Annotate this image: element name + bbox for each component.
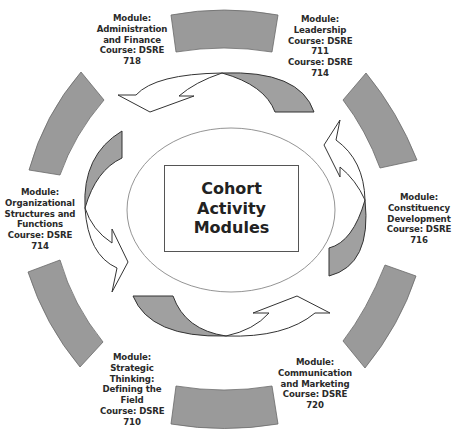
module-label-constituency-development: Module: Constituency Development Course:…	[382, 192, 456, 246]
arrow-bottom	[226, 296, 330, 336]
label-line: Course: DSRE	[100, 406, 164, 417]
label-line: Module:	[288, 14, 352, 25]
label-line: 710	[100, 417, 164, 428]
label-line: Module:	[382, 192, 456, 203]
label-line: Organizational	[4, 198, 76, 209]
ring-segment-lower-right	[343, 265, 416, 368]
module-label-leadership: Module: Leadership Course: DSRE 711 Cour…	[288, 14, 352, 79]
label-line: Course: DSRE	[288, 36, 352, 47]
label-line: 716	[382, 235, 456, 246]
label-line: Constituency	[382, 203, 456, 214]
label-line: 718	[92, 56, 172, 67]
arrow-left	[85, 208, 128, 292]
label-line: 714	[288, 68, 352, 79]
label-line: Course: DSRE	[92, 45, 172, 56]
ring-segment-lower-left	[28, 260, 103, 367]
label-line: Strategic	[100, 363, 164, 374]
module-label-organizational-structures: Module: Organizational Structures and Fu…	[4, 187, 76, 252]
label-line: Course: DSRE	[4, 230, 76, 241]
label-line: and Marketing	[278, 379, 352, 390]
label-line: Thinking:	[100, 374, 164, 385]
arrow-left-shade	[85, 131, 122, 208]
label-line: Module:	[4, 187, 76, 198]
center-title-line: Modules	[194, 218, 270, 238]
label-line: Course: DSRE	[288, 57, 352, 68]
label-line: 720	[278, 400, 352, 411]
module-label-strategic-thinking: Module: Strategic Thinking: Defining the…	[100, 352, 164, 428]
arrow-top	[118, 73, 222, 112]
arrow-right	[324, 120, 365, 200]
module-label-communication-marketing: Module: Communication and Marketing Cour…	[278, 357, 352, 411]
label-line: Leadership	[288, 25, 352, 36]
center-title-box: Cohort Activity Modules	[164, 165, 299, 252]
label-line: Course: DSRE	[382, 224, 456, 235]
label-line: Development	[382, 214, 456, 225]
label-line: Functions	[4, 219, 76, 230]
label-line: Communication	[278, 368, 352, 379]
label-line: Defining the	[100, 384, 164, 395]
label-line: Field	[100, 395, 164, 406]
ring-segment-top	[171, 10, 278, 52]
ring-segment-upper-right	[343, 73, 417, 168]
label-line: and Finance	[92, 35, 172, 46]
label-line: Module:	[100, 352, 164, 363]
arrow-bottom-shade	[133, 296, 226, 336]
label-line: 711	[288, 46, 352, 57]
center-title-line: Cohort	[201, 179, 262, 199]
label-line: Module:	[92, 13, 172, 24]
center-title-line: Activity	[197, 199, 266, 219]
label-line: Course: DSRE	[278, 389, 352, 400]
module-label-administration-finance: Module: Administration and Finance Cours…	[92, 13, 172, 67]
ring-segment-upper-left	[29, 72, 104, 175]
label-line: Module:	[278, 357, 352, 368]
ring-segment-bottom	[171, 386, 278, 429]
label-line: Administration	[92, 24, 172, 35]
label-line: 714	[4, 241, 76, 252]
label-line: Structures and	[4, 209, 76, 220]
